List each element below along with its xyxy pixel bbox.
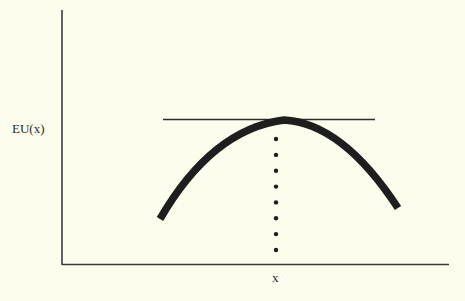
drop-line-dot — [274, 153, 278, 157]
drop-line-dot — [274, 216, 278, 220]
eu-curve — [160, 120, 398, 219]
drop-line-dot — [274, 137, 278, 141]
drop-line-dot — [274, 184, 278, 188]
x-axis-label: x — [272, 270, 279, 286]
drop-line-dot — [274, 248, 278, 252]
y-axis-label: EU(x) — [12, 121, 45, 137]
dotted-drop-line — [274, 137, 278, 252]
drop-line-dot — [274, 232, 278, 236]
drop-line-dot — [274, 169, 278, 173]
drop-line-dot — [274, 200, 278, 204]
diagram-canvas — [0, 0, 465, 301]
